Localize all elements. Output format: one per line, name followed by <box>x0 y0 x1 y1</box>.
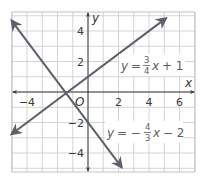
eq2-constant: − 2 <box>163 126 185 140</box>
eq1-y: y <box>120 59 129 73</box>
x-tick-label: 4 <box>146 96 153 109</box>
equation-label-1: y = 3 4 x + 1 <box>119 54 185 76</box>
eq2-equals: = − <box>117 126 141 140</box>
eq1-equals: = <box>131 59 141 73</box>
line-y-neg-4-3x-minus-2 <box>12 21 122 167</box>
eq1-denominator: 4 <box>144 66 149 76</box>
x-tick-label: 2 <box>115 96 122 109</box>
y-tick-label: 2 <box>77 56 84 69</box>
eq1-numerator: 3 <box>144 55 149 65</box>
eq1-constant: + 1 <box>162 59 184 73</box>
y-tick-label: 4 <box>77 25 84 38</box>
y-axis-label: y <box>91 11 100 25</box>
y-tick-label: −4 <box>68 147 84 160</box>
y-tick-label: −2 <box>68 117 84 130</box>
eq2-x: x <box>152 126 161 140</box>
eq2-y: y <box>106 126 115 140</box>
equation-label-2: y = − 4 3 x − 2 <box>105 121 185 143</box>
coordinate-graph: −4246 42−2−4 x y O y = 3 4 x + 1 y = − 4… <box>0 0 211 187</box>
eq2-numerator: 4 <box>145 122 150 132</box>
line-y-3-4x-plus-1 <box>12 18 166 134</box>
x-tick-label: 6 <box>176 96 183 109</box>
origin-label: O <box>75 95 84 109</box>
eq2-denominator: 3 <box>145 133 150 143</box>
x-axis-label: x <box>184 76 193 90</box>
eq1-x: x <box>151 59 160 73</box>
x-tick-label: −4 <box>19 96 35 109</box>
